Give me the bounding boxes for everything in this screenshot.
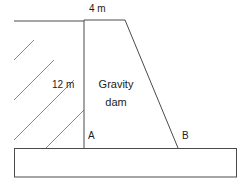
gravity-dam-figure: 4 m 12 m Gravity dam A B bbox=[0, 0, 247, 186]
dam-height-label: 12 m bbox=[52, 79, 74, 91]
foundation-slab bbox=[15, 149, 237, 178]
dam-body-label: Gravity dam bbox=[92, 78, 140, 108]
dam-body-label-line-2: dam bbox=[92, 96, 140, 109]
dam-body-label-line-1: Gravity bbox=[99, 78, 134, 90]
point-a-label: A bbox=[88, 130, 95, 142]
point-b-label: B bbox=[182, 130, 189, 142]
crest-width-label: 4 m bbox=[89, 3, 106, 15]
